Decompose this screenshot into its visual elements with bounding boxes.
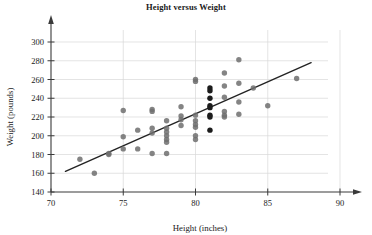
svg-text:75: 75 bbox=[119, 198, 128, 208]
svg-text:280: 280 bbox=[31, 56, 44, 66]
horizontal-gridlines bbox=[51, 42, 328, 173]
vertical-gridlines bbox=[123, 30, 340, 192]
svg-text:80: 80 bbox=[191, 198, 200, 208]
svg-text:200: 200 bbox=[31, 131, 44, 141]
svg-text:90: 90 bbox=[336, 198, 345, 208]
y-axis-title: Weight (pounds) bbox=[5, 88, 15, 147]
svg-text:70: 70 bbox=[47, 198, 56, 208]
x-axis-tick-labels: 7075808590 bbox=[47, 198, 345, 208]
svg-text:160: 160 bbox=[31, 168, 44, 178]
svg-text:240: 240 bbox=[31, 93, 44, 103]
svg-text:85: 85 bbox=[264, 198, 273, 208]
svg-text:300: 300 bbox=[31, 37, 44, 47]
x-axis-title: Height (inches) bbox=[173, 223, 228, 233]
scatter-chart: Height versus Weight 1401601802002202402… bbox=[0, 0, 372, 235]
plot-area: 140160180200220240260280300 7075808590 W… bbox=[0, 0, 372, 235]
svg-text:140: 140 bbox=[31, 187, 44, 197]
svg-text:220: 220 bbox=[31, 112, 44, 122]
svg-text:180: 180 bbox=[31, 150, 44, 160]
y-axis-tick-labels: 140160180200220240260280300 bbox=[31, 37, 44, 197]
svg-text:260: 260 bbox=[31, 75, 44, 85]
